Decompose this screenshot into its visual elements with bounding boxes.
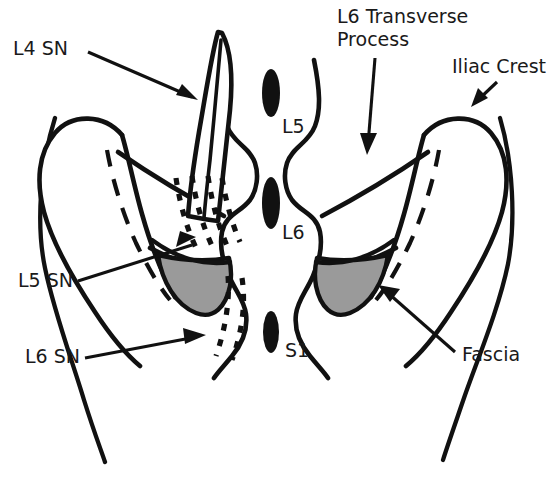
spinous-process-l6 xyxy=(262,177,280,229)
spinous-process-s1 xyxy=(263,311,279,353)
right-lamina xyxy=(285,60,328,378)
label-l6-transverse-process-line1: L6 Transverse xyxy=(337,5,468,27)
spinous-process-l5 xyxy=(262,69,280,117)
l6-sn-arrowhead xyxy=(183,328,206,344)
label-iliac-crest: Iliac Crest xyxy=(452,55,546,77)
l6-tp-arrowhead xyxy=(360,133,377,155)
anatomy-figure: L4 SN L6 Transverse Process Iliac Crest … xyxy=(0,0,555,479)
l4-sn-arrowhead xyxy=(176,84,198,100)
label-l6-transverse-process-line2: Process xyxy=(337,28,409,50)
label-fascia: Fascia xyxy=(462,343,520,365)
l4-sn-leader-line xyxy=(88,52,192,97)
label-l6-sn: L6 SN xyxy=(25,345,80,367)
label-vertebra-l6: L6 xyxy=(282,221,305,243)
anatomy-diagram-canvas: L4 SN L6 Transverse Process Iliac Crest … xyxy=(0,0,555,479)
label-l4-sn: L4 SN xyxy=(13,37,68,59)
label-vertebra-s1: S1 xyxy=(285,339,309,361)
label-l5-sn: L5 SN xyxy=(18,269,73,291)
l6-sn-leader-line xyxy=(85,337,196,358)
label-vertebra-l5: L5 xyxy=(282,115,305,137)
l6-tp-leader-line xyxy=(368,58,375,145)
